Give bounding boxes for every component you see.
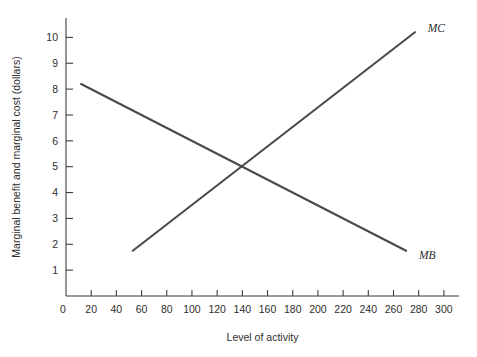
y-tick-label-9: 9 bbox=[52, 57, 58, 69]
y-tick-label-3: 3 bbox=[52, 212, 58, 224]
series-line-mc bbox=[133, 32, 415, 251]
x-tick-label-160: 160 bbox=[259, 303, 277, 315]
x-axis-ticks bbox=[91, 290, 444, 296]
x-tick-label-40: 40 bbox=[111, 303, 123, 315]
x-tick-label-120: 120 bbox=[208, 303, 226, 315]
x-tick-label-180: 180 bbox=[284, 303, 302, 315]
x-tick-label-300: 300 bbox=[435, 303, 453, 315]
y-tick-label-6: 6 bbox=[52, 135, 58, 147]
y-tick-label-8: 8 bbox=[52, 83, 58, 95]
x-tick-label-260: 260 bbox=[385, 303, 403, 315]
y-axis-tick-labels: 12345678910 bbox=[46, 31, 58, 276]
x-tick-label-20: 20 bbox=[85, 303, 97, 315]
series-label-mc: MC bbox=[427, 22, 446, 34]
origin-label: 0 bbox=[60, 303, 66, 315]
x-tick-label-100: 100 bbox=[183, 303, 201, 315]
x-tick-label-280: 280 bbox=[410, 303, 428, 315]
x-tick-label-220: 220 bbox=[334, 303, 352, 315]
x-tick-label-240: 240 bbox=[360, 303, 378, 315]
x-axis-title: Level of activity bbox=[227, 331, 300, 343]
x-axis-tick-labels: 2040608010012014016018020022024026028030… bbox=[85, 303, 452, 315]
y-tick-label-2: 2 bbox=[52, 238, 58, 250]
x-tick-label-60: 60 bbox=[136, 303, 148, 315]
data-series-group bbox=[81, 32, 415, 251]
x-tick-label-200: 200 bbox=[309, 303, 327, 315]
series-label-mb: MB bbox=[418, 249, 436, 261]
y-axis-title: Marginal benefit and marginal cost (doll… bbox=[10, 56, 22, 257]
y-tick-label-1: 1 bbox=[52, 264, 58, 276]
y-tick-label-7: 7 bbox=[52, 109, 58, 121]
y-tick-label-4: 4 bbox=[52, 186, 58, 198]
axes-group bbox=[66, 18, 459, 296]
x-tick-label-80: 80 bbox=[161, 303, 173, 315]
y-tick-label-5: 5 bbox=[52, 160, 58, 172]
chart-canvas: 12345678910 2040608010012014016018020022… bbox=[0, 0, 477, 357]
chart-figure: 12345678910 2040608010012014016018020022… bbox=[0, 0, 477, 357]
y-axis-ticks bbox=[66, 37, 73, 270]
x-tick-label-140: 140 bbox=[234, 303, 252, 315]
series-line-mb bbox=[81, 84, 406, 251]
series-labels-group: MBMC bbox=[418, 22, 445, 260]
y-tick-label-10: 10 bbox=[46, 31, 58, 43]
